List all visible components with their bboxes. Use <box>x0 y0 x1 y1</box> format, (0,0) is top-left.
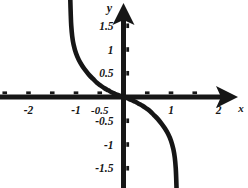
curve-upper-left-branch <box>70 0 123 97</box>
y-tick-label: 1 <box>108 44 114 56</box>
x-tick-label: -2 <box>24 104 34 116</box>
coordinate-plot: -2-1-0.512 1.510.5-0.5-1-1.5 x y <box>0 0 248 188</box>
x-axis-label: x <box>237 102 244 114</box>
y-tick-label: -1 <box>104 139 114 151</box>
plot-canvas: -2-1-0.512 1.510.5-0.5-1-1.5 x y <box>0 0 248 188</box>
y-tick-label: -1.5 <box>95 162 113 174</box>
x-tick-label: 2 <box>215 104 222 116</box>
y-tick-label: 1.5 <box>99 20 114 32</box>
x-tick-label: -1 <box>71 104 81 116</box>
x-tick-label: 1 <box>168 104 174 116</box>
x-axis-ticks <box>5 91 195 94</box>
y-axis-label: y <box>105 1 113 15</box>
y-tick-label: -0.5 <box>95 115 113 127</box>
y-tick-label: 0.5 <box>99 67 114 79</box>
